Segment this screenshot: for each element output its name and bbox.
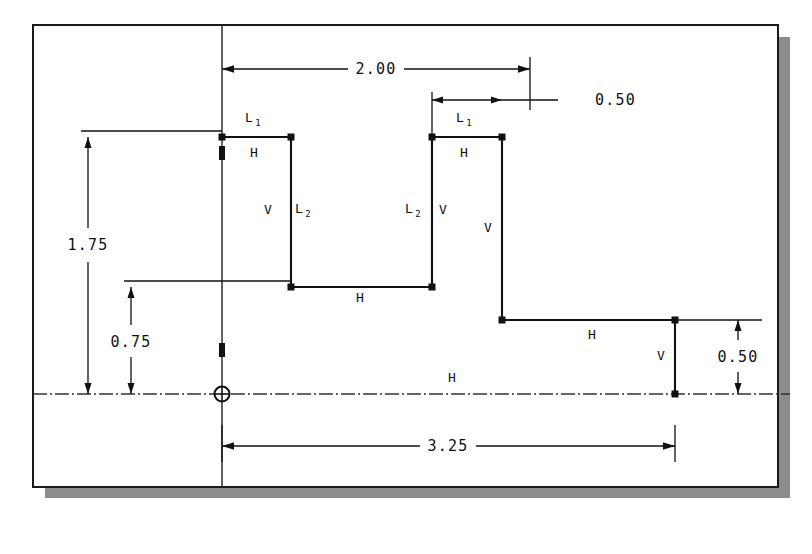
dim-label-1-75[interactable]: 1.75 [68,236,109,254]
origin-symbol[interactable] [215,387,230,402]
dim-label-0-75[interactable]: 0.75 [111,333,152,351]
svg-text:L: L [456,110,464,125]
technical-drawing-svg[interactable]: 2.00 0.50 1.75 0.75 [0,0,812,554]
constraint-H-5[interactable]: H [448,370,456,385]
dim-label-2-00[interactable]: 2.00 [356,60,397,78]
coincident-marker[interactable] [219,146,225,160]
sketch-window-frame [33,25,778,487]
constraint-H-4[interactable]: H [588,327,596,342]
svg-text:2: 2 [305,209,310,219]
svg-text:2: 2 [415,209,420,219]
coincident-marker-lower[interactable] [219,343,225,357]
constraint-H-2[interactable]: H [356,290,364,305]
constraint-V-2[interactable]: V [439,202,447,217]
svg-text:L: L [295,201,303,216]
svg-text:1: 1 [255,118,260,128]
dim-label-0-50-right[interactable]: 0.50 [718,348,759,366]
constraint-V-4[interactable]: V [657,348,665,363]
constraint-V-3[interactable]: V [484,220,492,235]
dim-label-3-25[interactable]: 3.25 [428,437,469,455]
constraint-V-1[interactable]: V [264,202,272,217]
dim-label-0-50-top[interactable]: 0.50 [595,91,636,109]
svg-text:L: L [405,201,413,216]
constraint-H-3[interactable]: H [460,145,468,160]
svg-text:L: L [245,110,253,125]
constraint-H-1[interactable]: H [250,145,258,160]
cad-drawing-canvas: 2.00 0.50 1.75 0.75 [0,0,812,554]
svg-text:1: 1 [466,118,471,128]
